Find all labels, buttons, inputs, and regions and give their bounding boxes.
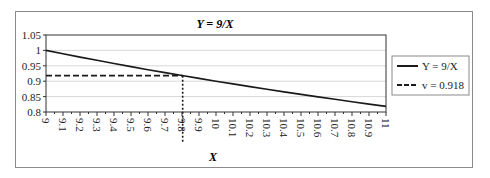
x-tick-label: 9.7 xyxy=(159,118,171,132)
x-tick-label: 10 xyxy=(210,118,222,130)
x-tick-label: 10.3 xyxy=(261,118,273,138)
x-tick-label: 10.2 xyxy=(244,118,256,137)
chart-title: Y = 9/X xyxy=(196,17,234,31)
x-tick-label: 9.9 xyxy=(193,118,205,132)
series-y-equals-9-over-x xyxy=(46,50,386,106)
x-axis-ticks: 99.19.29.39.49.59.69.79.89.91010.110.210… xyxy=(40,112,392,138)
x-tick-label: 10.8 xyxy=(346,118,358,138)
x-tick-label: 10.1 xyxy=(227,118,239,137)
y-tick-label: 1 xyxy=(36,44,42,56)
chart-svg: Y = 9/X 1.0510.950.90.850.8 99.19.29.39.… xyxy=(0,0,490,178)
legend-item-1: Y = 9/X xyxy=(422,60,458,72)
gridlines xyxy=(46,50,386,96)
x-tick-label: 9.3 xyxy=(91,118,103,132)
y-tick-label: 0.85 xyxy=(22,91,42,103)
x-tick-label: 11 xyxy=(380,118,392,129)
y-tick-label: 0.95 xyxy=(22,60,42,72)
x-tick-label: 10.5 xyxy=(295,118,307,138)
x-tick-label: 9 xyxy=(40,118,52,124)
y-axis-ticks: 1.0510.950.90.850.8 xyxy=(22,29,46,118)
legend: Y = 9/X v = 0.918 xyxy=(392,56,469,95)
x-tick-label: 10.9 xyxy=(363,118,375,138)
y-tick-label: 0.9 xyxy=(27,75,41,87)
x-tick-label: 9.6 xyxy=(142,118,154,132)
y-tick-label: 0.8 xyxy=(27,106,41,118)
x-tick-label: 9.5 xyxy=(125,118,137,132)
x-tick-label: 10.6 xyxy=(312,118,324,138)
y-tick-label: 1.05 xyxy=(22,29,42,41)
x-axis-title: X xyxy=(208,150,218,164)
x-tick-label: 9.2 xyxy=(74,118,86,132)
plot-area xyxy=(46,35,386,112)
x-tick-label: 9.4 xyxy=(108,118,120,132)
x-tick-label: 10.7 xyxy=(329,118,341,138)
x-tick-label: 9.1 xyxy=(57,118,69,132)
legend-item-2: v = 0.918 xyxy=(422,79,464,91)
x-tick-label: 10.4 xyxy=(278,118,290,138)
